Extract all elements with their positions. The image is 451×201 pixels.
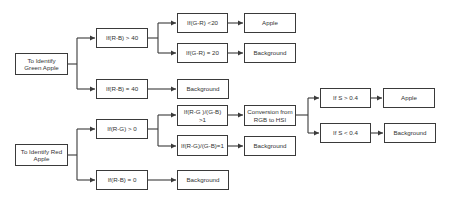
- node-s-lt: If S < 0.4: [320, 123, 371, 143]
- node-convert-rgb-hsi: Conversion from RGB to HSI: [244, 105, 296, 126]
- node-red-background-2: Background: [177, 170, 229, 190]
- node-rg-gt-0: If(R-G) > 0: [96, 119, 148, 139]
- node-green-background-2: Background: [177, 79, 229, 99]
- node-ratio-gt-1: If(R-G )/(G-B) >1: [177, 105, 228, 126]
- node-rb-eq-0: If(R-B) = 0: [96, 170, 148, 190]
- node-red-background-1: Background: [244, 136, 296, 156]
- node-ratio-eq-1: If(R-G)/(G-B)=1: [177, 135, 228, 156]
- node-rb-gt-40: If(R-B) > 40: [96, 28, 148, 48]
- node-green-background-1: Background: [244, 43, 296, 63]
- node-red-background-3: Background: [384, 123, 436, 143]
- node-red-apple: Apple: [383, 88, 435, 108]
- node-s-gt: If S > 0.4: [320, 88, 371, 108]
- node-green-start: To Identify Green Apple: [15, 53, 68, 75]
- node-red-start: To Identify Red Apple: [15, 144, 68, 166]
- node-green-apple: Apple: [244, 13, 296, 33]
- node-gr-lt-20: If(G-R) <20: [177, 13, 228, 33]
- node-gr-eq-20: If(G-R) = 20: [177, 43, 228, 63]
- node-rb-eq-40: If(R-B) = 40: [96, 79, 148, 99]
